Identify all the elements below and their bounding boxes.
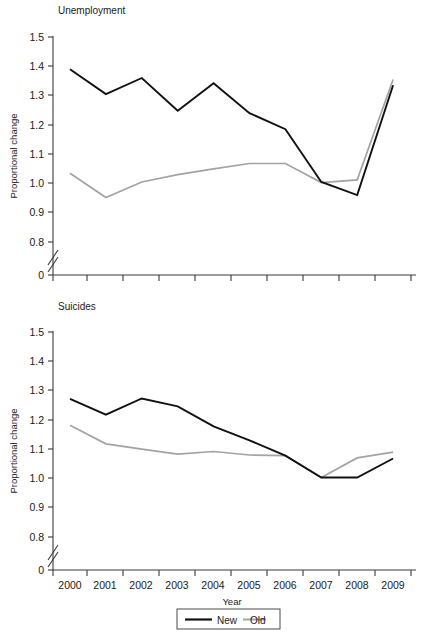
y-tick-label-13-top: 1.3	[29, 89, 44, 101]
y-tick-label-08-bottom: 0.8	[29, 531, 44, 543]
y-tick-label-14-top: 1.4	[29, 60, 44, 72]
y-tick-label-12-bottom: 1.2	[29, 414, 44, 426]
x-tick-label-2009: 2009	[381, 579, 405, 591]
y-axis-title-bottom: Proportional change	[8, 408, 19, 493]
figure-root: Unemployment 0 0.8 0.9 1.0 1.1 1.2 1.3	[0, 0, 433, 634]
y-tick-label-08-top: 0.8	[29, 236, 44, 248]
panel-title-suicides: Suicides	[58, 301, 96, 312]
y-tick-label-11-top: 1.1	[29, 148, 44, 160]
x-tick-label-2007: 2007	[309, 579, 333, 591]
legend: New Old	[177, 609, 280, 629]
x-tick-label-2002: 2002	[129, 579, 153, 591]
figure-background	[0, 0, 433, 634]
y-tick-label-09-top: 0.9	[29, 206, 44, 218]
y-tick-label-15-bottom: 1.5	[29, 326, 44, 338]
y-tick-label-0-top: 0	[38, 269, 44, 281]
x-tick-label-2001: 2001	[93, 579, 117, 591]
y-tick-label-10-top: 1.0	[29, 177, 44, 189]
legend-label-old: Old	[250, 615, 266, 626]
y-tick-label-15-top: 1.5	[29, 31, 44, 43]
y-tick-label-11-bottom: 1.1	[29, 443, 44, 455]
x-tick-label-2000: 2000	[58, 579, 82, 591]
y-axis-title-top: Proportional change	[8, 113, 19, 198]
x-tick-label-2005: 2005	[237, 579, 261, 591]
y-tick-label-10-bottom: 1.0	[29, 472, 44, 484]
x-tick-label-2008: 2008	[345, 579, 369, 591]
x-tick-label-2004: 2004	[201, 579, 225, 591]
y-tick-label-12-top: 1.2	[29, 119, 44, 131]
y-tick-label-13-bottom: 1.3	[29, 384, 44, 396]
y-tick-label-0-bottom: 0	[38, 564, 44, 576]
y-tick-label-09-bottom: 0.9	[29, 501, 44, 513]
x-tick-label-2003: 2003	[165, 579, 189, 591]
x-tick-label-2006: 2006	[273, 579, 297, 591]
x-axis-title: Year	[222, 596, 241, 607]
y-tick-label-14-bottom: 1.4	[29, 355, 44, 367]
panel-title-unemployment: Unemployment	[58, 5, 125, 16]
legend-label-new: New	[217, 615, 238, 626]
